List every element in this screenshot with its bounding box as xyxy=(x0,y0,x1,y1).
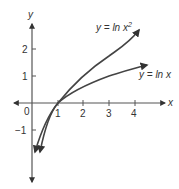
x-tick-label-3: 3 xyxy=(106,108,112,119)
y-tick-label-m1: −1 xyxy=(15,125,27,136)
curve-ln-x2 xyxy=(35,30,139,152)
x-tick-label-2: 2 xyxy=(80,108,86,119)
label-ln-x2: y = ln x2 xyxy=(95,21,132,33)
chart-plot: 0 1 2 3 4 2 1 −1 y x y = ln x2 y = ln x xyxy=(0,0,179,189)
x-axis-label: x xyxy=(167,97,174,108)
y-tick-label-2: 2 xyxy=(22,44,28,55)
label-ln-x: y = ln x xyxy=(138,69,172,80)
y-tick-label-1: 1 xyxy=(22,71,28,82)
x-tick-label-1: 1 xyxy=(55,108,61,119)
x-tick-label-4: 4 xyxy=(131,108,137,119)
y-axis-label: y xyxy=(27,9,34,20)
x-tick-label-0: 0 xyxy=(24,106,30,117)
